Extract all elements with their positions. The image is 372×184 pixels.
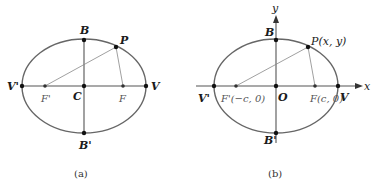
label-v-prime-a: V' <box>7 80 19 93</box>
y-axis-arrow-icon <box>273 15 279 23</box>
label-f-b: F(c, 0) <box>309 93 343 104</box>
focal-radius-fprime-p-a <box>45 47 116 86</box>
label-v-a: V <box>151 80 161 93</box>
panel-b: y x B P(x, y) V' F'(−c, 0) O F(c, 0) V B… <box>196 2 371 179</box>
label-b-b: B <box>264 26 274 39</box>
point-f-prime-a <box>43 84 47 88</box>
focal-radius-fprime-p-b <box>236 47 308 86</box>
x-axis-arrow-icon <box>355 83 363 89</box>
point-b-b <box>274 38 278 42</box>
label-c-a: C <box>73 90 82 103</box>
point-p-b <box>306 45 310 49</box>
point-f-a <box>121 84 125 88</box>
ellipse-diagram: B P V' V F' C F B' (a) y x B P(x, y) V' … <box>0 0 372 184</box>
focal-radius-f-p-a <box>116 47 123 86</box>
point-b-prime-a <box>82 131 86 135</box>
label-p-a: P <box>119 34 129 47</box>
label-b-prime-a: B' <box>78 139 92 152</box>
label-x-axis: x <box>364 80 371 93</box>
point-v-a <box>144 84 148 88</box>
point-b-a <box>82 38 86 42</box>
caption-b: (b) <box>268 168 282 179</box>
label-y-axis: y <box>271 2 279 15</box>
label-b-prime-b: B' <box>263 134 277 147</box>
caption-a: (a) <box>74 168 88 179</box>
point-c-a <box>82 84 86 88</box>
point-v-prime-a <box>20 84 24 88</box>
focal-radius-f-p-b <box>308 47 315 86</box>
label-f-a: F <box>118 93 127 104</box>
label-p-b: P(x, y) <box>310 35 346 48</box>
label-f-prime-b: F'(−c, 0) <box>220 93 265 104</box>
label-f-prime-a: F' <box>40 93 51 104</box>
point-f-prime-b <box>234 84 238 88</box>
point-o-b <box>274 84 278 88</box>
label-o-b: O <box>278 91 288 104</box>
panel-a: B P V' V F' C F B' (a) <box>7 24 161 179</box>
point-v-b <box>336 84 340 88</box>
label-v-b: V <box>340 91 350 104</box>
point-p-a <box>114 45 118 49</box>
label-b-a: B <box>79 24 89 37</box>
point-f-b <box>313 84 317 88</box>
label-v-prime-b: V' <box>198 92 210 105</box>
point-v-prime-b <box>212 84 216 88</box>
